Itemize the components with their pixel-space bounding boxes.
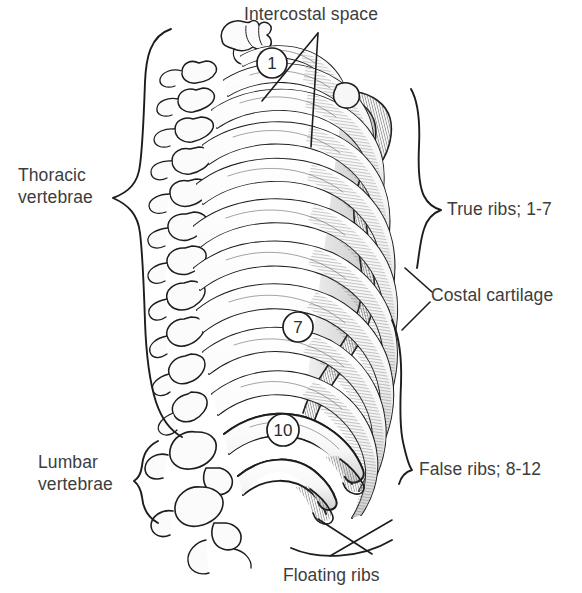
label-thoracic-vertebrae-line2: vertebrae [18, 187, 93, 208]
leader-costal-cartilage [405, 268, 432, 292]
leader-costal-cartilage-2 [402, 302, 430, 330]
leader-floating-b [330, 520, 392, 556]
label-floating-ribs: Floating ribs [283, 565, 380, 586]
label-thoracic-vertebrae-line1: Thoracic [18, 165, 86, 186]
callout-label-1: 1 [267, 54, 276, 73]
label-false-ribs: False ribs; 8-12 [419, 459, 541, 480]
rib-cage-figure: 1 7 10 Intercostal space Thoracic verteb… [0, 0, 582, 593]
callout-label-10: 10 [274, 421, 293, 440]
label-true-ribs: True ribs; 1-7 [447, 199, 552, 220]
true-ribs-brace [411, 89, 441, 268]
sternum-tip [334, 83, 360, 108]
label-lumbar-vertebrae-line2: vertebrae [38, 474, 113, 495]
rib-12-floating [238, 460, 337, 525]
label-costal-cartilage: Costal cartilage [431, 285, 553, 306]
floating-ribs-arc [291, 540, 392, 556]
lumbar-vertebrae [145, 432, 251, 574]
lumbar-vertebrae-brace [134, 441, 158, 523]
ribs-group [194, 46, 397, 524]
label-lumbar-vertebrae-line1: Lumbar [38, 452, 98, 473]
callout-label-7: 7 [293, 318, 302, 337]
label-intercostal-space: Intercostal space [244, 4, 378, 25]
